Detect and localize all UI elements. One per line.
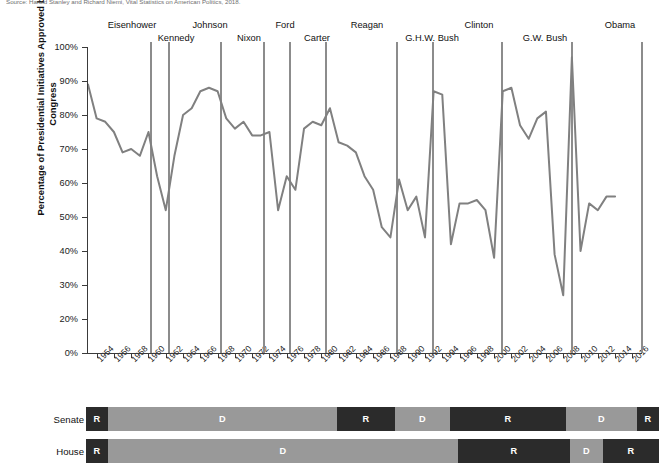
- congress-segment-r: R: [450, 407, 566, 431]
- president-label: G.H.W. Bush: [405, 33, 459, 43]
- y-axis: Percentage of Presidential Initiatives A…: [18, 0, 88, 471]
- president-label: Obama: [605, 20, 636, 30]
- x-axis-line: [87, 353, 642, 354]
- congress-segment-d: D: [395, 407, 450, 431]
- president-divider-line: [641, 42, 643, 353]
- congress-bar-senate: RDRDRDR: [86, 407, 659, 431]
- y-tick-label: 90%: [18, 76, 78, 86]
- congress-segment-d: D: [566, 407, 637, 431]
- y-tick-label: 30%: [18, 280, 78, 290]
- congress-bar-house: RDRDR: [86, 439, 659, 463]
- congress-segment-r: R: [86, 407, 108, 431]
- president-label: Ford: [275, 20, 294, 30]
- congress-segment-r: R: [458, 439, 570, 463]
- president-label: Reagan: [351, 20, 384, 30]
- congress-segment-d: D: [108, 407, 337, 431]
- president-label: Johnson: [192, 20, 227, 30]
- chart-page: Source: Harold Stanley and Richard Niemi…: [0, 0, 665, 471]
- y-tick-label: 60%: [18, 178, 78, 188]
- y-tick-label: 20%: [18, 314, 78, 324]
- plot-area: [88, 47, 641, 353]
- president-label: Nixon: [237, 33, 261, 43]
- president-label: Kennedy: [158, 33, 195, 43]
- y-tick-label: 40%: [18, 246, 78, 256]
- congress-row-label-senate: Senate: [18, 414, 84, 425]
- y-tick-label: 80%: [18, 110, 78, 120]
- y-tick-label: 100%: [18, 42, 78, 52]
- approval-line-chart: [88, 47, 641, 353]
- congress-segment-r: R: [603, 439, 659, 463]
- congress-segment-d: D: [108, 439, 458, 463]
- congress-segment-r: R: [86, 439, 108, 463]
- y-tick-label: 50%: [18, 212, 78, 222]
- congress-segment-d: D: [570, 439, 603, 463]
- approval-line-series: [88, 57, 615, 295]
- president-label: G.W. Bush: [523, 33, 567, 43]
- president-label: Eisenhower: [108, 20, 157, 30]
- congress-segment-r: R: [337, 407, 395, 431]
- y-tick-label: 0%: [18, 348, 78, 358]
- congress-row-label-house: House: [18, 446, 84, 457]
- source-caption: Source: Harold Stanley and Richard Niemi…: [6, 0, 656, 6]
- president-label: Carter: [304, 33, 330, 43]
- president-label: Clinton: [465, 20, 494, 30]
- y-tick-label: 70%: [18, 144, 78, 154]
- congress-segment-r: R: [637, 407, 659, 431]
